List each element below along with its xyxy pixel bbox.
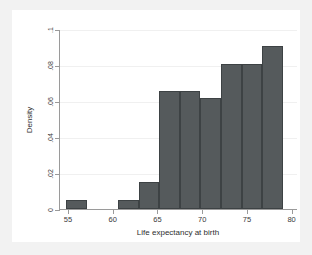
y-axis-tick-label: .1 <box>47 27 54 33</box>
histogram-bar <box>242 64 263 209</box>
y-axis-tick-label: .04 <box>47 133 54 143</box>
y-axis-title: Density <box>25 107 34 134</box>
x-axis-tick-label: 80 <box>287 216 295 224</box>
y-axis-tick-label: .02 <box>47 169 54 179</box>
x-axis-title: Life expectancy at birth <box>59 228 297 237</box>
y-axis-tick <box>55 66 59 67</box>
x-axis-tick <box>247 210 248 214</box>
x-axis-tick-label: 65 <box>153 216 161 224</box>
histogram-bar <box>159 91 180 209</box>
plot-canvas: 0.02.04.06.08.1 556065707580 Life expect… <box>12 10 300 242</box>
histogram-figure: 0.02.04.06.08.1 556065707580 Life expect… <box>0 0 312 255</box>
y-axis-tick <box>55 30 59 31</box>
histogram-bar <box>200 98 221 209</box>
x-axis-tick-label: 55 <box>64 216 72 224</box>
y-axis-tick-label: 0 <box>47 208 54 212</box>
y-axis-line <box>59 30 60 211</box>
y-axis-tick-label: .06 <box>47 97 54 107</box>
histogram-bar <box>66 200 87 209</box>
histogram-bar <box>139 182 160 209</box>
x-axis-tick <box>292 210 293 214</box>
y-axis-tick <box>55 174 59 175</box>
x-axis-tick-label: 60 <box>109 216 117 224</box>
histogram-bar <box>180 91 201 209</box>
x-axis-tick <box>202 210 203 214</box>
y-axis-tick <box>55 102 59 103</box>
histogram-bar <box>221 64 242 209</box>
gridline <box>59 30 297 31</box>
histogram-bar <box>118 200 139 209</box>
y-axis-tick-label: .08 <box>47 61 54 71</box>
x-axis-tick <box>113 210 114 214</box>
histogram-bar <box>262 46 283 209</box>
x-axis-tick <box>68 210 69 214</box>
x-axis-tick <box>157 210 158 214</box>
y-axis-tick <box>55 210 59 211</box>
plot-area: 0.02.04.06.08.1 556065707580 Life expect… <box>59 30 297 210</box>
y-axis-tick <box>55 138 59 139</box>
x-axis-tick-label: 75 <box>243 216 251 224</box>
x-axis-line <box>59 209 297 210</box>
x-axis-tick-label: 70 <box>198 216 206 224</box>
